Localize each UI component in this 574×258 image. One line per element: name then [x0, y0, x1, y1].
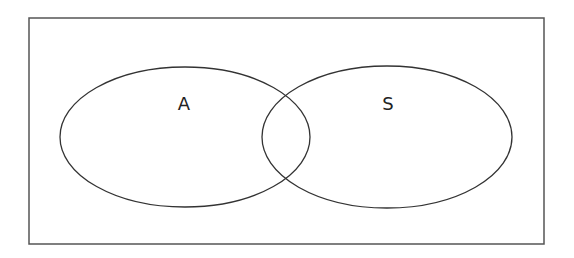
set-s-label: S — [382, 93, 393, 114]
set-s-ellipse — [262, 66, 512, 208]
venn-diagram: A S — [0, 0, 574, 258]
universe-rectangle — [29, 18, 544, 244]
set-a-ellipse — [60, 67, 310, 207]
set-a-label: A — [178, 93, 191, 114]
